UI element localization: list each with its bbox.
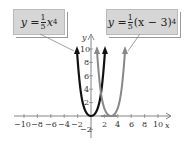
svg-text:2: 2: [102, 120, 107, 129]
svg-text:10: 10: [80, 45, 90, 54]
svg-text:−6: −6: [45, 120, 57, 129]
svg-text:−8: −8: [31, 120, 43, 129]
svg-text:−10: −10: [14, 120, 31, 129]
svg-text:8: 8: [142, 120, 147, 129]
arrow-icon: [94, 46, 100, 54]
svg-text:6: 6: [84, 72, 89, 81]
svg-text:y: y: [81, 33, 87, 42]
svg-text:10: 10: [153, 120, 163, 129]
leader-line-right: [128, 34, 140, 51]
svg-text:x: x: [165, 121, 170, 130]
graph: y x 10 8 6 4 2 −2 −10 −8 −6 −4 −2 2 4 6 …: [0, 0, 189, 148]
svg-text:2: 2: [84, 98, 89, 107]
svg-text:4: 4: [84, 85, 89, 94]
arrow-icon: [102, 46, 108, 54]
svg-text:6: 6: [129, 120, 134, 129]
svg-text:−2: −2: [71, 120, 83, 129]
arrow-icon: [122, 46, 128, 54]
svg-text:−4: −4: [58, 120, 70, 129]
svg-text:8: 8: [84, 58, 89, 67]
leader-line-left: [40, 34, 74, 51]
svg-text:4: 4: [115, 120, 120, 129]
